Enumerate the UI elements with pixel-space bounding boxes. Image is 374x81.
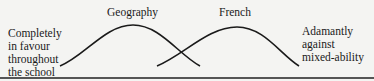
geography-curve	[60, 25, 200, 66]
distribution-curves	[0, 0, 374, 81]
bottom-rule	[0, 77, 374, 79]
french-curve	[157, 27, 299, 66]
